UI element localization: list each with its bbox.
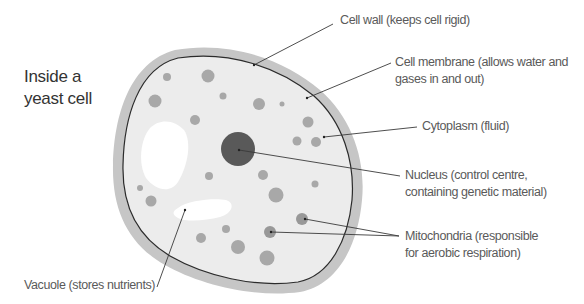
label-cell-wall: Cell wall (keeps cell rigid) <box>340 12 470 29</box>
label-mitochondria: Mitochondria (responsible for aerobic re… <box>405 228 538 262</box>
label-vacuole: Vacuole (stores nutrients) <box>24 277 155 294</box>
nucleus <box>221 132 255 166</box>
label-cytoplasm: Cytoplasm (fluid) <box>422 118 509 135</box>
label-nucleus: Nucleus (control centre, containing gene… <box>405 167 547 201</box>
label-cell-membrane: Cell membrane (allows water and gases in… <box>395 54 568 88</box>
